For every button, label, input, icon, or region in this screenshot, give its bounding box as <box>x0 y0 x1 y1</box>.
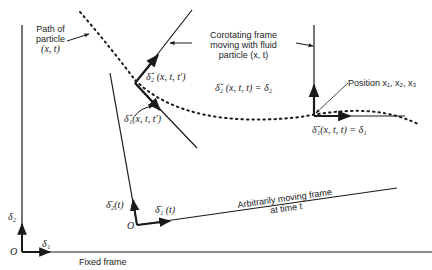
moving-origin-label: O <box>127 221 134 231</box>
particle-path <box>80 12 420 125</box>
moving-delta1-arrow <box>137 221 170 225</box>
path-label-line1: Path of <box>36 24 65 34</box>
position-leader-arrow <box>316 83 348 113</box>
corotating-label-line3: particle (x, t) <box>210 50 277 60</box>
fixed-delta2-label: δ₂ <box>8 212 16 222</box>
fixed-frame-label: Fixed frame <box>79 257 127 267</box>
path-of-particle-label: Path of particle (x, t) <box>36 24 65 54</box>
moving-delta2-label: δ̄₂(t) <box>106 200 124 210</box>
delta2-xtt-label: δ̌₂ (x, t, t) = δ₂ <box>215 83 272 93</box>
path-leader-arrow <box>67 34 89 41</box>
path-label-line3: (x, t) <box>36 44 65 54</box>
corotating-delta1-tprime-arrow <box>135 83 160 110</box>
moving-delta1-label: δ̄₁ (t) <box>155 205 175 215</box>
corotating-frame-label: Corotating frame moving with fluid parti… <box>210 30 277 60</box>
corotating-label-line2: moving with fluid <box>210 40 277 50</box>
fixed-delta1-label: δ₁ <box>42 239 50 249</box>
delta1-xttprime-label: δ̌₁(x, t, t′) <box>124 114 161 124</box>
corotating-leader-arrow-2 <box>296 43 313 46</box>
fixed-origin-label: O <box>10 247 17 257</box>
corotating-label-line1: Corotating frame <box>210 30 277 40</box>
delta1-xtt-label: δ̌₁(x, t, t) = δ₁ <box>312 125 367 135</box>
delta2-xttprime-label: δ̌₂ (x, t, t′) <box>146 72 185 82</box>
position-label: Position x₁, x₂, x₃ <box>348 78 416 88</box>
